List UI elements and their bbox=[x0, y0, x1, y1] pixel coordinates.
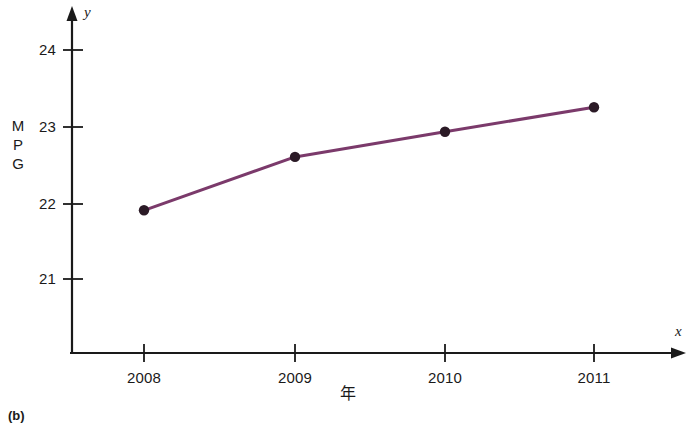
data-point bbox=[440, 127, 450, 137]
x-tick-label-2009: 2009 bbox=[265, 369, 325, 386]
y-tick-label-24: 24 bbox=[22, 41, 56, 58]
y-axis-title-char-m: M bbox=[7, 116, 29, 135]
y-tick-label-22: 22 bbox=[22, 195, 56, 212]
y-axis-title-char-p: P bbox=[7, 135, 29, 154]
x-axis-variable-label: x bbox=[675, 323, 682, 340]
data-point bbox=[139, 205, 149, 215]
y-axis-variable-label: y bbox=[84, 4, 91, 21]
data-point bbox=[290, 152, 300, 162]
x-axis-title-year: 年 bbox=[322, 380, 374, 404]
panel-label: (b) bbox=[8, 408, 25, 423]
x-tick-label-2008: 2008 bbox=[114, 369, 174, 386]
y-axis bbox=[67, 6, 78, 353]
y-axis-title-mpg: M P G bbox=[7, 116, 29, 173]
figure-panel: y x 24 23 22 21 2008 2009 2010 2011 M P … bbox=[0, 0, 693, 436]
x-tick-label-2010: 2010 bbox=[415, 369, 475, 386]
x-tick-label-2011: 2011 bbox=[564, 369, 624, 386]
data-point bbox=[589, 102, 599, 112]
y-axis-title-char-g: G bbox=[7, 154, 29, 173]
data-series-line bbox=[144, 107, 594, 210]
y-tick-label-21: 21 bbox=[22, 270, 56, 287]
